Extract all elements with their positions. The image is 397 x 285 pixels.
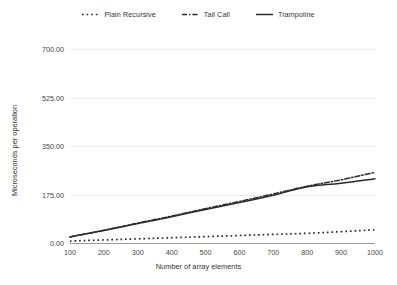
legend-label: Trampoline — [278, 10, 315, 19]
y-tick-label: 0.00 — [50, 239, 64, 248]
y-axis-title: Microseconds per operation — [10, 71, 19, 231]
series-layer — [70, 49, 375, 243]
y-tick-label: 175.00 — [42, 190, 64, 199]
legend-entry[interactable]: Tail Call — [182, 10, 230, 19]
legend-line-swatch-solid-icon — [256, 11, 273, 18]
x-tick-label: 500 — [200, 248, 212, 257]
y-tick-label: 700.00 — [42, 45, 64, 54]
x-tick-label: 800 — [301, 248, 313, 257]
x-tick-label: 400 — [166, 248, 178, 257]
legend-entry[interactable]: Plain Recursive — [82, 10, 155, 19]
x-axis-tick-labels: 1002003004005006007008009001000 — [0, 248, 397, 262]
series-line — [70, 172, 375, 237]
series-line — [70, 179, 375, 237]
x-tick-label: 900 — [335, 248, 347, 257]
y-tick-label: 525.00 — [42, 93, 64, 102]
legend-line-swatch-dotted-icon — [82, 11, 99, 18]
x-axis-title: Number of array elements — [0, 262, 397, 271]
line-chart: Plain RecursiveTail CallTrampoline 0.001… — [0, 0, 397, 285]
x-tick-label: 1000 — [367, 248, 383, 257]
legend-entry[interactable]: Trampoline — [256, 10, 315, 19]
x-tick-label: 100 — [64, 248, 76, 257]
x-tick-label: 300 — [132, 248, 144, 257]
legend-label: Tail Call — [204, 10, 230, 19]
x-tick-label: 600 — [233, 248, 245, 257]
x-tick-label: 700 — [267, 248, 279, 257]
axis-baseline — [70, 243, 375, 244]
y-tick-label: 350.00 — [42, 142, 64, 151]
legend-label: Plain Recursive — [104, 10, 155, 19]
x-tick-label: 200 — [98, 248, 110, 257]
legend-line-swatch-dash-dot-icon — [182, 11, 199, 18]
plot-area — [70, 49, 375, 243]
series-line — [70, 230, 375, 241]
